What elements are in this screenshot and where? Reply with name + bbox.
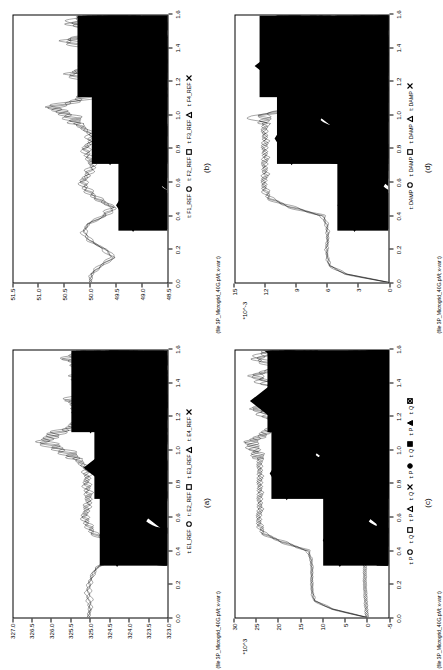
- x-tick-label: 0.2: [173, 580, 180, 589]
- plot-lines-b: [13, 15, 167, 282]
- plot-area-a: [12, 349, 168, 618]
- x-tick-label: 1.2: [173, 412, 180, 421]
- x-tick-mark: [389, 516, 393, 517]
- y-tick-label: 323.5: [144, 623, 151, 638]
- x-tick-label: 1.6: [173, 345, 180, 354]
- cross-icon: [185, 408, 192, 415]
- y-tick-label: 5: [341, 623, 348, 626]
- legend-label: t: DAMP: [407, 124, 413, 143]
- x-tick-mark: [389, 550, 393, 551]
- x-tick-label: 1.4: [173, 43, 180, 52]
- legend-label: t: Q: [407, 406, 413, 414]
- x-tick-mark: [168, 114, 172, 115]
- panel-grid: 323.0323.5324.0324.5325.0325.5326.0326.5…: [0, 0, 443, 670]
- x-tick-mark: [168, 13, 172, 14]
- y-tick-label: 325.0: [86, 623, 93, 638]
- x-tick-label: 0.2: [173, 245, 180, 254]
- file-label-b: (file 3P_Microgrid_40G.pM; x-var t): [214, 256, 220, 333]
- plot-lines-d: [235, 15, 389, 282]
- x-tick-mark: [389, 114, 393, 115]
- x-tick-label: 1.2: [394, 77, 401, 86]
- y-tick-label: 50.5: [60, 288, 67, 300]
- legend-item-b-0: t: F1_REF: [185, 185, 192, 217]
- x-tick-mark: [168, 617, 172, 618]
- y-tick-label: 324.0: [125, 623, 132, 638]
- y-tick-label: 326.0: [47, 623, 54, 638]
- legend-label: t: P: [407, 470, 413, 478]
- y-tick-mark: [255, 618, 256, 622]
- square-filled-icon: [406, 440, 413, 447]
- y-tick-label: -5: [385, 623, 392, 629]
- circle-open-icon: [185, 520, 192, 527]
- x-tick-label: 0.8: [394, 479, 401, 488]
- x-tick-label: 0.6: [394, 178, 401, 187]
- y-tick-label: 327.0: [8, 623, 15, 638]
- y-tick-mark: [277, 618, 278, 622]
- y-tick-mark: [389, 618, 390, 622]
- legend-label: t: F4_REF: [185, 82, 191, 106]
- legend-item-d-1: t: DAMP: [406, 148, 413, 176]
- x-tick-label: 0.6: [173, 513, 180, 522]
- legend-b: t: F1_REFt: F2_REFt: F3_REFt: F4_REF: [185, 8, 192, 283]
- triangle-filled-icon: [406, 419, 413, 426]
- legend-label: t: E3_REF: [185, 454, 191, 478]
- legend-item-d-3: t: DAMP: [406, 82, 413, 110]
- y-tick-mark: [344, 618, 345, 622]
- circle-filled-icon: [406, 462, 413, 469]
- x-tick-label: 1.0: [173, 446, 180, 455]
- legend-item-c-2: t: P: [406, 505, 413, 521]
- y-tick-mark: [322, 618, 323, 622]
- legend-item-c-4: t: P: [406, 462, 413, 478]
- legend-label: t: F1_REF: [185, 194, 191, 218]
- x-tick-mark: [168, 181, 172, 182]
- x-tick-label: 0.4: [173, 211, 180, 220]
- x-tick-label: 1.2: [173, 77, 180, 86]
- cross-icon: [406, 82, 413, 89]
- y-tick-mark: [357, 283, 358, 287]
- file-label-a: (file 3P_Microgrid_40G.pM; x-var t): [214, 591, 220, 668]
- x-tick-label: 0.4: [173, 546, 180, 555]
- legend-item-c-1: t: Q: [406, 526, 413, 543]
- figure-page: 323.0323.5324.0324.5325.0325.5326.0326.5…: [0, 0, 443, 670]
- y-tick-label: 15: [230, 288, 237, 295]
- x-tick-label: 1.0: [173, 111, 180, 120]
- file-label-d: (file 3P_Microgrid_40G.pM; x-var t): [435, 256, 441, 333]
- y-axis-b: 48.549.049.550.050.551.051.5: [12, 283, 168, 335]
- legend-label: t: E1_REF: [185, 529, 191, 553]
- x-tick-label: 1.2: [394, 412, 401, 421]
- y-tick-label: 25: [252, 623, 259, 630]
- plot-lines-c: [235, 350, 389, 617]
- x-tick-mark: [389, 415, 393, 416]
- x-tick-label: 0.6: [394, 513, 401, 522]
- y-tick-mark: [141, 283, 142, 287]
- cross-icon: [185, 74, 192, 81]
- y-tick-label: 6: [323, 288, 330, 291]
- x-tick-label: 1.0: [394, 446, 401, 455]
- y-axis-d: 03691215: [234, 283, 390, 335]
- x-tick-mark: [389, 617, 393, 618]
- y-tick-mark: [12, 618, 13, 622]
- x-tick-label: 0.8: [173, 144, 180, 153]
- legend-label: t: P: [407, 513, 413, 521]
- y-tick-mark: [167, 618, 168, 622]
- y-tick-mark: [37, 283, 38, 287]
- x-tick-mark: [389, 181, 393, 182]
- x-tick-label: 1.4: [394, 378, 401, 387]
- panel-label-b: (b): [201, 0, 210, 335]
- y-tick-mark: [264, 283, 265, 287]
- y-tick-label: 324.5: [105, 623, 112, 638]
- x-tick-label: 0.0: [394, 614, 401, 623]
- y-tick-mark: [109, 618, 110, 622]
- legend-item-b-2: t: F3_REF: [185, 111, 192, 143]
- legend-item-b-3: t: F4_REF: [185, 74, 192, 106]
- y-tick-label: 325.5: [66, 623, 73, 638]
- legend-d: t: DAMPt: DAMPt: DAMPt: DAMP: [406, 8, 413, 283]
- legend-item-b-1: t: F2_REF: [185, 148, 192, 180]
- x-tick-mark: [168, 148, 172, 149]
- y-tick-mark: [233, 283, 234, 287]
- y-tick-mark: [295, 283, 296, 287]
- y-tick-mark: [167, 283, 168, 287]
- y-tick-mark: [128, 618, 129, 622]
- panel-c: -5051015202530 *10^3 0.00.20.40.60.81.01…: [222, 335, 443, 670]
- x-tick-mark: [168, 483, 172, 484]
